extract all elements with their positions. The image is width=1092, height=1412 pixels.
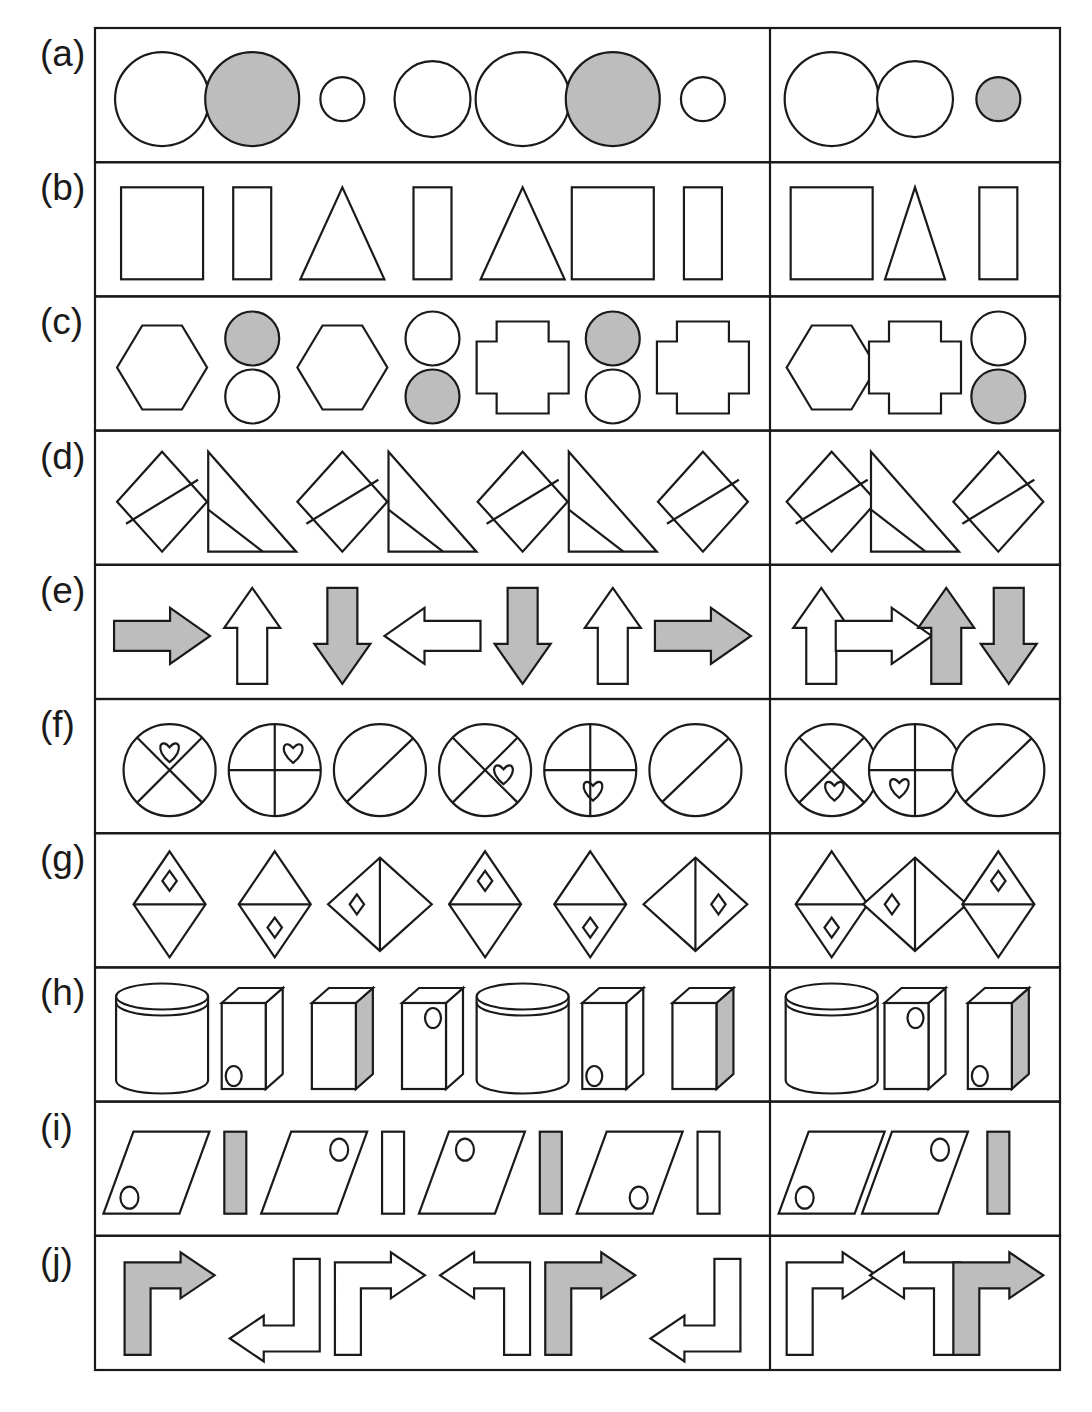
circle-shape bbox=[785, 52, 879, 146]
row-label-c: (c) bbox=[40, 301, 83, 342]
parallelogram-circle-marker bbox=[630, 1187, 648, 1209]
circle-shape bbox=[681, 77, 725, 121]
figure-canvas: (a)(b)(c)(d)(e)(f)(g)(h)(i)(j) bbox=[0, 0, 1092, 1412]
square-shape bbox=[572, 187, 654, 279]
row-h-left-sequence bbox=[116, 984, 733, 1094]
stacked-circle-top bbox=[406, 312, 460, 366]
circle-shape bbox=[877, 61, 953, 137]
stacked-circle-bottom bbox=[225, 370, 279, 424]
box-circle-marker bbox=[972, 1066, 988, 1086]
stacked-circle-bottom bbox=[406, 370, 460, 424]
stacked-circle-bottom bbox=[971, 370, 1025, 424]
parallelogram-circle-marker bbox=[796, 1187, 814, 1209]
box-circle-marker bbox=[226, 1066, 242, 1086]
row-label-f: (f) bbox=[40, 704, 75, 745]
bar-shape bbox=[698, 1132, 720, 1214]
rect-tall-shape bbox=[979, 187, 1017, 279]
cylinder-top-ellipse bbox=[116, 984, 208, 1010]
circle-shape bbox=[976, 77, 1020, 121]
row-label-g: (g) bbox=[40, 838, 85, 879]
row-label-h: (h) bbox=[40, 972, 85, 1013]
stacked-circle-bottom bbox=[586, 370, 640, 424]
row-f-right-sequence bbox=[786, 724, 1045, 816]
circle-shape bbox=[205, 52, 299, 146]
stacked-circle-top bbox=[971, 312, 1025, 366]
parallelogram-circle-marker bbox=[330, 1139, 348, 1161]
stacked-circle-top bbox=[225, 312, 279, 366]
bar-shape bbox=[540, 1132, 562, 1214]
circle-shape bbox=[320, 77, 364, 121]
stacked-circle-top bbox=[586, 312, 640, 366]
circle-shape bbox=[566, 52, 660, 146]
box-front-face bbox=[312, 1003, 356, 1089]
parallelogram-circle-marker bbox=[120, 1187, 138, 1209]
circle-shape bbox=[115, 52, 209, 146]
square-shape bbox=[121, 187, 203, 279]
cylinder-top-ellipse bbox=[477, 984, 569, 1010]
box-side-face bbox=[446, 988, 463, 1089]
bar-shape bbox=[382, 1132, 404, 1214]
row-label-a: (a) bbox=[40, 33, 85, 74]
box-side-face bbox=[356, 988, 373, 1089]
cylinder-top-ellipse bbox=[786, 984, 878, 1010]
rect-tall-shape bbox=[414, 187, 452, 279]
row-g-right-sequence bbox=[796, 851, 1035, 957]
shape-sequence-figure: (a)(b)(c)(d)(e)(f)(g)(h)(i)(j) bbox=[0, 0, 1092, 1412]
parallelogram-circle-marker bbox=[931, 1139, 949, 1161]
row-label-j: (j) bbox=[40, 1241, 73, 1282]
row-h-right-sequence bbox=[786, 984, 1029, 1094]
row-label-e: (e) bbox=[40, 570, 85, 611]
row-label-d: (d) bbox=[40, 436, 85, 477]
box-side-face bbox=[626, 988, 643, 1089]
rect-tall-shape bbox=[684, 187, 722, 279]
box-side-face bbox=[716, 988, 733, 1089]
box-side-face bbox=[929, 988, 946, 1089]
rect-tall-shape bbox=[233, 187, 271, 279]
bar-shape bbox=[224, 1132, 246, 1214]
box-side-face bbox=[1012, 988, 1029, 1089]
box-front-face bbox=[672, 1003, 716, 1089]
square-shape bbox=[791, 187, 873, 279]
row-label-i: (i) bbox=[40, 1107, 73, 1148]
box-circle-marker bbox=[908, 1008, 924, 1028]
parallelogram-circle-marker bbox=[456, 1139, 474, 1161]
box-circle-marker bbox=[425, 1008, 441, 1028]
circle-shape bbox=[476, 52, 570, 146]
box-side-face bbox=[266, 988, 283, 1089]
row-label-b: (b) bbox=[40, 167, 85, 208]
bar-shape bbox=[987, 1132, 1009, 1214]
circle-shape bbox=[395, 61, 471, 137]
box-circle-marker bbox=[586, 1066, 602, 1086]
